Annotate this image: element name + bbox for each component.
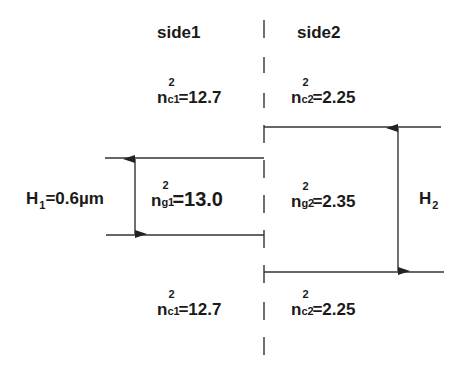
- side2-cladding-bottom-index: n2c2=2.25: [291, 298, 355, 318]
- side2-cladding-top-index: n2c2=2.25: [291, 86, 355, 106]
- side1-cladding-top-index: n2c1=12.7: [157, 86, 221, 106]
- waveguide-structure: [0, 0, 468, 370]
- side1-cladding-bottom-index: n2c1=12.7: [157, 298, 221, 318]
- side2-label: side2: [297, 24, 340, 41]
- side1-core-index: n2g1=13.0: [151, 189, 223, 209]
- side1-label: side1: [157, 24, 200, 41]
- side2-core-index: n2g2=2.35: [291, 190, 355, 210]
- h1-thickness-label: H1=0.6µm: [26, 190, 104, 207]
- h2-thickness-label: H2: [419, 190, 438, 207]
